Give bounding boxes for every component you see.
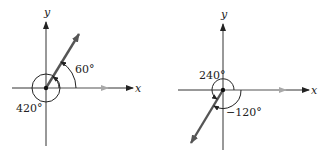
arc-60: [61, 62, 76, 88]
left-diagram: y x 60° 420°: [12, 6, 142, 146]
angle-label-420: 420°: [16, 102, 43, 115]
y-axis-label: y: [43, 6, 51, 19]
angle-label-minus-120: −120°: [226, 106, 262, 119]
origin-point: [221, 88, 225, 92]
terminal-side-ray: [46, 34, 79, 88]
coterminal-angles-figure: y x 60° 420° y x 240° −120°: [0, 0, 328, 157]
x-axis-label: x: [135, 82, 142, 95]
origin-point: [44, 86, 48, 90]
terminal-side-ray: [191, 90, 223, 143]
x-axis-label: x: [311, 84, 318, 97]
angle-label-60: 60°: [75, 63, 95, 76]
y-axis-label: y: [220, 8, 228, 21]
angle-label-240: 240°: [199, 69, 226, 82]
right-diagram: y x 240° −120°: [178, 8, 318, 150]
